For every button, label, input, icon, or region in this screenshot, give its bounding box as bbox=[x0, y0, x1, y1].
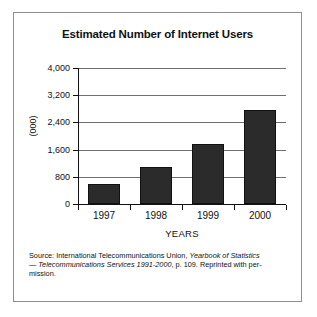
source-line-2-dash: — bbox=[29, 260, 38, 269]
y-tick-label: 4,000 bbox=[28, 64, 70, 73]
y-tick-label: 1,600 bbox=[28, 146, 70, 155]
bar-2000 bbox=[244, 110, 276, 204]
y-axis-title: (000) bbox=[28, 106, 38, 146]
x-tick-label-1998: 1998 bbox=[130, 210, 182, 221]
plot-area bbox=[78, 68, 286, 204]
source-line-1: Source: International Telecommunications… bbox=[29, 251, 289, 260]
x-tick-label-2000: 2000 bbox=[234, 210, 286, 221]
bar-1997 bbox=[88, 184, 120, 204]
bar-1998 bbox=[140, 167, 172, 204]
bar-1999 bbox=[192, 144, 224, 204]
x-tick-mark bbox=[286, 205, 287, 210]
y-tick-label: 0 bbox=[28, 200, 70, 209]
source-line-2: — Telecommunications Services 1991-2000,… bbox=[29, 260, 289, 269]
x-tick-label-1999: 1999 bbox=[182, 210, 234, 221]
x-tick-label-1997: 1997 bbox=[78, 210, 130, 221]
source-note: Source: International Telecommunications… bbox=[29, 251, 289, 279]
y-tick-label: 800 bbox=[28, 173, 70, 182]
source-line-2-title: Telecommunications Services 1991-2000 bbox=[38, 260, 171, 269]
x-axis-title: YEARS bbox=[78, 228, 286, 239]
source-line-3: mission. bbox=[29, 269, 289, 278]
source-line-1-title: Yearbook of Statistics bbox=[190, 251, 260, 260]
figure-frame: Estimated Number of Internet Users 08001… bbox=[13, 12, 302, 302]
source-line-1-text: Source: International Telecommunications… bbox=[29, 251, 190, 260]
y-tick-label: 3,200 bbox=[28, 91, 70, 100]
source-line-2-text: , p. 109. Reprinted with per- bbox=[172, 260, 262, 269]
